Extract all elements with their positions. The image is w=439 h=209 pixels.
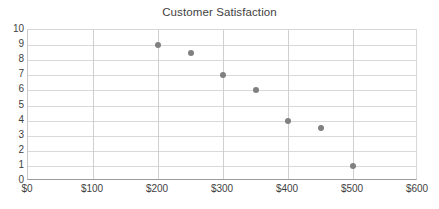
y-axis-tick-label: 5	[0, 100, 24, 110]
y-axis-tick-label: 2	[0, 145, 24, 155]
y-axis-tick-label: 8	[0, 54, 24, 64]
gridline-vertical	[223, 30, 224, 179]
y-axis-tick-labels: 012345678910	[0, 29, 24, 180]
data-point	[318, 125, 324, 131]
x-axis-tick-label: $600	[392, 183, 439, 194]
y-axis-tick-label: 3	[0, 130, 24, 140]
x-axis-tick-label: $300	[197, 183, 247, 194]
gridline-vertical	[158, 30, 159, 179]
gridline-horizontal	[28, 121, 416, 122]
chart-title: Customer Satisfaction	[0, 6, 439, 18]
gridline-vertical	[93, 30, 94, 179]
y-axis-tick-label: 9	[0, 39, 24, 49]
data-point	[188, 50, 194, 56]
data-point	[220, 72, 226, 78]
data-point	[285, 118, 291, 124]
y-axis-tick-label: 7	[0, 69, 24, 79]
x-axis-tick-label: $200	[132, 183, 182, 194]
y-axis-tick-label: 1	[0, 160, 24, 170]
gridline-horizontal	[28, 60, 416, 61]
gridline-vertical	[353, 30, 354, 179]
x-axis-tick-label: $0	[2, 183, 52, 194]
gridline-horizontal	[28, 90, 416, 91]
y-axis-tick-label: 4	[0, 115, 24, 125]
gridline-horizontal	[28, 106, 416, 107]
x-axis-tick-labels: $0$100$200$300$400$500$600	[27, 183, 417, 199]
y-axis-tick-label: 10	[0, 24, 24, 34]
data-point	[155, 42, 161, 48]
x-axis-tick-label: $400	[262, 183, 312, 194]
y-axis-tick-label: 6	[0, 84, 24, 94]
scatter-chart: Customer Satisfaction 012345678910 $0$10…	[0, 0, 439, 209]
data-point	[253, 87, 259, 93]
data-point	[350, 163, 356, 169]
x-axis-tick-label: $100	[67, 183, 117, 194]
gridline-horizontal	[28, 166, 416, 167]
gridline-vertical	[288, 30, 289, 179]
x-axis-tick-label: $500	[327, 183, 377, 194]
gridline-horizontal	[28, 151, 416, 152]
gridline-horizontal	[28, 45, 416, 46]
gridline-horizontal	[28, 136, 416, 137]
plot-area	[27, 29, 417, 180]
